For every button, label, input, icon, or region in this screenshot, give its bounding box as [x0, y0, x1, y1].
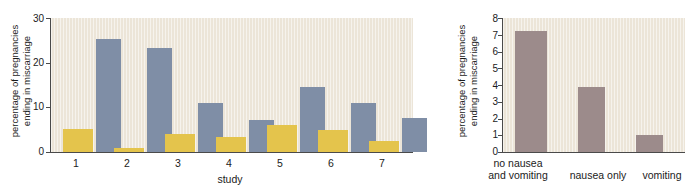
right-chart-ytick-5 [498, 68, 502, 69]
left-chart-ytick-label-10: 10 [22, 101, 44, 112]
right-chart-ytick-4 [498, 85, 502, 86]
right-chart-y-axis-title-line1: percentage of pregnancies [456, 10, 468, 152]
left-chart-xtick-label-2: 2 [107, 157, 147, 169]
right-chart-ytick-1 [498, 135, 502, 136]
bar-no-nausea-and-vomiting [515, 31, 547, 152]
left-chart-y-axis-title: percentage of pregnancies ending in misc… [9, 10, 32, 152]
chart-panel-left: percentage of pregnancies ending in misc… [0, 0, 430, 193]
right-chart-plot-area [503, 18, 685, 152]
right-chart-ytick-label-7: 7 [484, 30, 498, 41]
right-chart-ytick-label-8: 8 [484, 13, 498, 24]
right-chart-y-axis-title-line2: ending in miscarriage [468, 10, 480, 152]
right-chart-y-axis-title: percentage of pregnancies ending in misc… [456, 10, 479, 152]
right-chart-ytick-label-1: 1 [484, 129, 498, 140]
left-chart-y-axis-title-line2: ending in miscarriage [21, 10, 33, 152]
right-chart-ytick-8 [498, 18, 502, 19]
bar-study5-nausea [267, 125, 297, 152]
left-chart-x-axis-line [50, 152, 413, 153]
left-chart-xtick-label-5: 5 [260, 157, 300, 169]
bar-study7-nausea [369, 141, 399, 152]
left-chart-ytick-10 [46, 107, 50, 108]
left-chart-ytick-0 [46, 152, 50, 153]
left-chart-xtick-label-3: 3 [158, 157, 198, 169]
right-chart-ytick-2 [498, 119, 502, 120]
right-chart-x-axis-line [502, 152, 685, 153]
left-chart-xtick-label-6: 6 [311, 157, 351, 169]
chart-panel-right: percentage of pregnancies ending in misc… [440, 0, 692, 193]
right-chart-ytick-label-2: 2 [484, 113, 498, 124]
bar-vomiting [636, 135, 663, 152]
left-chart-ytick-20 [46, 63, 50, 64]
bar-study4-nausea [216, 137, 246, 152]
right-chart-ytick-0 [498, 152, 502, 153]
bar-study1-nausea [63, 129, 93, 152]
left-chart-ytick-label-20: 20 [22, 57, 44, 68]
right-chart-ytick-label-0: 0 [484, 146, 498, 157]
left-chart-xtick-label-4: 4 [209, 157, 249, 169]
bar-study2-nausea [114, 148, 144, 152]
right-chart-xtick-label-nausea-only: nausea only [553, 169, 643, 181]
right-chart-xtick-label-line1: no nausea [468, 157, 568, 169]
left-chart-xtick-label-1: 1 [56, 157, 96, 169]
left-chart-x-axis-title: study [200, 173, 260, 185]
left-chart-ytick-label-0: 0 [22, 146, 44, 157]
right-chart-ytick-label-3: 3 [484, 96, 498, 107]
bar-nausea-only [578, 87, 605, 152]
bar-study6-nausea [318, 130, 348, 152]
right-chart-ytick-label-6: 6 [484, 46, 498, 57]
right-chart-ytick-7 [498, 35, 502, 36]
right-chart-ytick-label-5: 5 [484, 63, 498, 74]
left-chart-y-axis-title-line1: percentage of pregnancies [9, 10, 21, 152]
left-chart-ytick-label-30: 30 [22, 13, 44, 24]
bar-study1-no-nausea [96, 39, 121, 153]
left-chart-xtick-label-7: 7 [362, 157, 402, 169]
right-chart-ytick-3 [498, 102, 502, 103]
bar-study3-nausea [165, 134, 195, 152]
figure-root: percentage of pregnancies ending in misc… [0, 0, 692, 193]
right-chart-ytick-6 [498, 52, 502, 53]
bar-study7-no-nausea [402, 118, 427, 152]
right-chart-xtick-label-vomiting: vomiting [632, 169, 692, 181]
right-chart-ytick-label-4: 4 [484, 80, 498, 91]
left-chart-plot-area [51, 18, 413, 152]
left-chart-ytick-30 [46, 18, 50, 19]
